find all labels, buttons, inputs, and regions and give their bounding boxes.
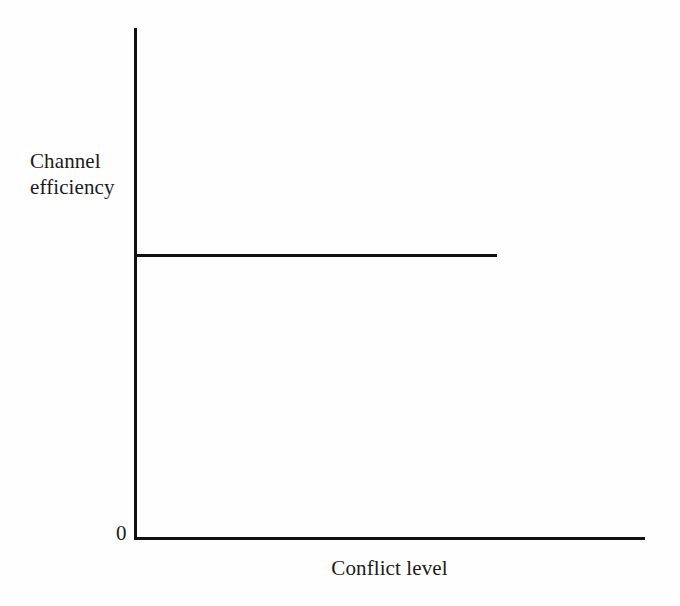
y-axis-label-line-1: Channel: [30, 149, 101, 173]
origin-tick-label: 0: [116, 521, 127, 545]
y-axis-label-line-2: efficiency: [30, 174, 115, 200]
figure-canvas: Channelefficiency Conflict level 0: [0, 0, 680, 606]
y-axis-line: [134, 28, 137, 540]
y-axis-label: Channelefficiency: [30, 148, 115, 200]
series-line-channel-efficiency: [134, 254, 497, 257]
x-axis-label: Conflict level: [134, 556, 645, 580]
x-axis-line: [134, 537, 645, 540]
